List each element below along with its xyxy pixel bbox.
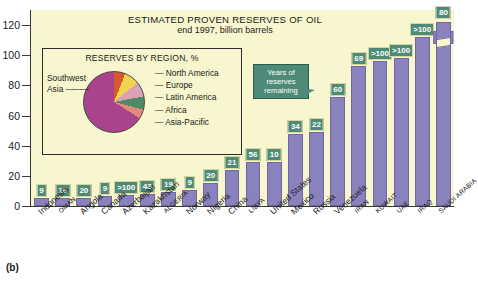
y-axis-tick-label: 80 [0, 80, 20, 90]
bar-group[interactable]: 10 [267, 140, 282, 206]
pie-chart [83, 71, 145, 133]
bar-group[interactable]: >100 [415, 15, 430, 206]
years-remaining-label: 56 [246, 148, 261, 161]
bar-group[interactable]: 60 [330, 75, 345, 206]
y-axis-tick-label: 20 [0, 171, 20, 181]
years-remaining-label: 60 [330, 83, 345, 96]
y-axis-tick [22, 55, 31, 56]
years-remaining-label: 80 [436, 6, 451, 19]
bar[interactable] [436, 22, 451, 206]
years-remaining-label: 34 [288, 120, 303, 133]
years-remaining-label: 20 [76, 184, 91, 197]
inset-panel: RESERVES BY REGION, % SouthwestAsia ——— … [42, 48, 242, 155]
y-axis-tick-label: 120 [0, 20, 20, 30]
bar[interactable] [394, 58, 409, 206]
pie-legend-item: — Latin America [155, 91, 219, 103]
y-axis-tick-label: 60 [0, 111, 20, 121]
bar-group[interactable]: >100 [394, 36, 409, 206]
years-remaining-label: 21 [224, 156, 239, 169]
years-remaining-label: 69 [351, 52, 366, 65]
years-remaining-label: 9 [100, 182, 110, 195]
bar[interactable] [330, 97, 345, 206]
bar-group[interactable]: 56 [246, 140, 261, 206]
figure-label: (b) [6, 262, 19, 273]
axis-break-mark [437, 37, 450, 48]
bar-group[interactable]: >100 [373, 39, 388, 206]
bar[interactable] [373, 61, 388, 206]
bar-group[interactable]: 69 [351, 44, 366, 206]
pie-label-southwest-asia: SouthwestAsia ——— [47, 73, 88, 95]
y-axis-tick [22, 85, 31, 86]
y-axis-tick [22, 206, 31, 207]
years-remaining-label: 9 [184, 176, 194, 189]
bar-group[interactable]: 26280 [436, 0, 451, 206]
years-remaining-label: >100 [389, 44, 413, 57]
bar[interactable] [415, 37, 430, 206]
inset-title: RESERVES BY REGION, % [43, 53, 241, 63]
y-axis-tick-label: 40 [0, 141, 20, 151]
years-remaining-label: 20 [203, 169, 218, 182]
pie-legend-item: — Asia-Pacific [155, 116, 219, 128]
pie-legend-item: — Africa [155, 104, 219, 116]
y-axis-tick [22, 146, 31, 147]
y-axis-tick [22, 25, 31, 26]
y-axis-tick-label: 100 [0, 50, 20, 60]
pie-legend-item: — North America [155, 67, 219, 79]
years-remaining-label: 22 [309, 118, 324, 131]
y-axis-tick [22, 116, 31, 117]
years-remaining-label: 10 [267, 148, 282, 161]
pie-legend: — North America— Europe— Latin America— … [155, 67, 219, 128]
years-remaining-label: >100 [410, 23, 434, 36]
years-remaining-label: 9 [36, 184, 46, 197]
y-axis-tick-label: 0 [0, 201, 20, 211]
callout-pointer [300, 88, 315, 100]
bar-group[interactable]: 22 [309, 110, 324, 206]
pie-legend-item: — Europe [155, 79, 219, 91]
y-axis-tick [22, 176, 31, 177]
